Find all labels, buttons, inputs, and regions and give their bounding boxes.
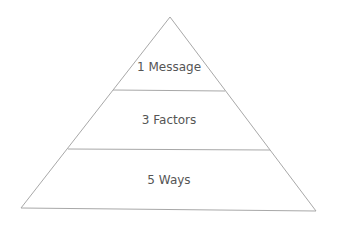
- level-3-label: 5 Ways: [99, 173, 239, 187]
- level-1-label: 1 Message: [99, 60, 239, 74]
- level-2-label: 3 Factors: [99, 113, 239, 127]
